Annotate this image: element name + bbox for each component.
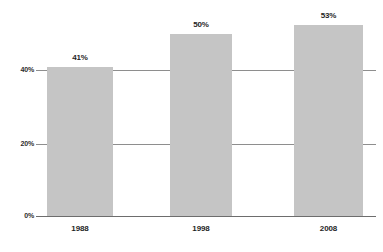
bar-2008	[294, 25, 363, 216]
x-category-label-2008: 2008	[294, 224, 363, 233]
bar-value-1998: 50%	[170, 20, 232, 29]
bar-value-1988: 41%	[47, 53, 113, 62]
plot-area: 40% 20% 0% 41% 50% 53% 1988 1998 2008	[0, 0, 383, 252]
bar-value-2008: 53%	[294, 11, 363, 20]
y-tick-label-40: 40%	[21, 66, 34, 74]
x-category-label-1988: 1988	[47, 224, 113, 233]
bar-1998	[170, 34, 232, 216]
y-tick-label-20: 20%	[21, 140, 34, 148]
bar-chart: 40% 20% 0% 41% 50% 53% 1988 1998 2008	[0, 0, 383, 252]
y-tick-label-0: 0%	[24, 212, 34, 220]
bar-1988	[47, 67, 113, 216]
x-axis-line	[36, 216, 376, 217]
x-category-label-1998: 1998	[170, 224, 232, 233]
